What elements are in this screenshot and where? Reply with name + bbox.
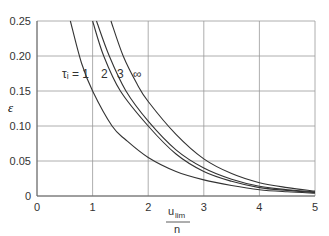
- curve-label: 2: [101, 67, 108, 81]
- y-tick-label: 0.15: [10, 85, 31, 97]
- x-tick-label: 4: [256, 201, 262, 213]
- y-tick-label: 0.25: [10, 15, 31, 27]
- x-axis-label-sub: lim: [175, 211, 186, 220]
- y-tick-label: 0.20: [10, 50, 31, 62]
- curve-line: [111, 21, 315, 191]
- curve-line: [70, 21, 315, 193]
- x-tick-label: 3: [201, 201, 207, 213]
- curve-line: [96, 21, 315, 192]
- curve-label: τᵢ = 1: [62, 67, 89, 81]
- x-axis-label-num: u: [168, 205, 174, 217]
- x-axis-label: u lim n: [166, 205, 190, 235]
- curves: [70, 21, 315, 193]
- curve-label: 3: [117, 67, 124, 81]
- x-tick-label: 5: [312, 201, 318, 213]
- chart-plot: 00.050.100.150.200.25 012345 τᵢ = 123∞ ε…: [0, 0, 329, 236]
- y-tick-label: 0.10: [10, 120, 31, 132]
- x-axis-label-den: n: [174, 223, 180, 235]
- curve-label: ∞: [133, 67, 142, 81]
- x-tick-label: 0: [34, 201, 40, 213]
- y-tick-label: 0: [25, 190, 31, 202]
- grid-lines: [37, 21, 315, 196]
- x-tick-label: 2: [145, 201, 151, 213]
- y-axis-label: ε: [8, 100, 14, 115]
- y-tick-label: 0.05: [10, 155, 31, 167]
- x-tick-label: 1: [90, 201, 96, 213]
